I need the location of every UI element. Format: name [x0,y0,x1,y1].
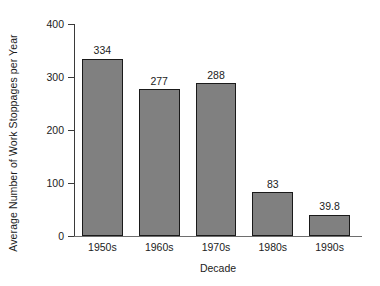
bar-value-label: 83 [267,179,279,190]
x-axis-tick-label: 1950s [74,241,131,253]
y-axis-tick [68,236,74,237]
y-axis-title: Average Number of Work Stoppages per Yea… [0,0,26,286]
y-axis-tick-label: 400 [24,18,64,30]
y-axis-tick-label: 100 [24,177,64,189]
bar-value-label: 39.8 [319,201,339,212]
x-axis-tick-label: 1970s [188,241,245,253]
bar-group[interactable]: 39.8 [309,201,350,236]
bar[interactable] [252,192,293,236]
bar-value-label: 288 [207,70,225,81]
bar[interactable] [82,59,123,236]
x-axis-line [74,236,362,237]
bar-group[interactable]: 83 [252,179,293,236]
bar[interactable] [139,89,180,236]
bar-value-label: 334 [94,45,112,56]
bar-chart: Average Number of Work Stoppages per Yea… [0,0,380,286]
bar[interactable] [309,215,350,236]
bar-group[interactable]: 334 [82,45,123,236]
plot-area: 3342772888339.8 [74,24,358,236]
y-axis-tick-label: 300 [24,71,64,83]
x-axis-tick-label: 1980s [244,241,301,253]
bar-value-label: 277 [150,76,168,87]
x-axis-title: Decade [74,262,362,274]
y-axis-tick-label: 0 [24,230,64,242]
bar-group[interactable]: 277 [139,76,180,236]
x-axis-tick-label: 1990s [301,241,358,253]
x-axis-tick-label: 1960s [131,241,188,253]
bar[interactable] [196,83,237,236]
bar-group[interactable]: 288 [196,70,237,236]
y-axis-tick-label: 200 [24,124,64,136]
